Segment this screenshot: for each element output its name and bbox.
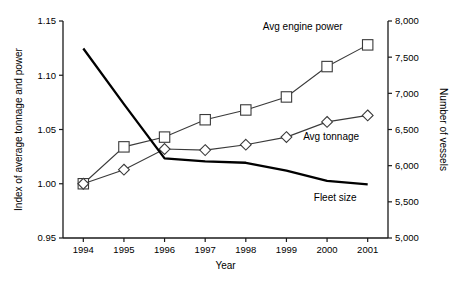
x-axis-tick-label: 2001 <box>357 244 378 255</box>
y-axis-left-title: Index of average tonnage and power <box>13 47 24 211</box>
y-axis-left-tick-label: 0.95 <box>38 232 57 243</box>
x-axis-tick-label: 2000 <box>316 244 337 255</box>
y-axis-left-tick-label: 1.05 <box>38 124 57 135</box>
data-point-marker <box>200 115 210 125</box>
data-point-marker <box>281 92 291 102</box>
data-point-marker <box>200 145 211 156</box>
series-annotation-label: Avg engine power <box>263 21 344 32</box>
data-point-marker <box>241 105 251 115</box>
series-annotation-label: Avg tonnage <box>303 131 359 142</box>
y-axis-right-tick-label: 6,000 <box>395 160 419 171</box>
x-axis-tick-label: 1997 <box>195 244 216 255</box>
data-point-marker <box>240 139 251 150</box>
x-axis-tick-label: 1996 <box>154 244 175 255</box>
y-axis-left-tick-label: 1.10 <box>38 70 57 81</box>
y-axis-left-tick-label: 1.15 <box>38 15 57 26</box>
x-axis-title: Year <box>215 260 236 271</box>
x-axis-tick-label: 1999 <box>276 244 297 255</box>
y-axis-right-tick-label: 7,000 <box>395 88 419 99</box>
y-axis-left-tick-label: 1.00 <box>38 178 57 189</box>
x-axis-tick-label: 1994 <box>73 244 94 255</box>
x-axis-tick-label: 1995 <box>113 244 134 255</box>
y-axis-right-tick-label: 7,500 <box>395 52 419 63</box>
y-axis-right-tick-label: 6,500 <box>395 124 419 135</box>
x-axis-tick-label: 1998 <box>235 244 256 255</box>
data-point-marker <box>322 61 332 71</box>
data-point-marker <box>362 110 373 121</box>
data-point-marker <box>159 132 169 142</box>
data-point-marker <box>281 132 292 143</box>
data-point-marker <box>322 117 333 128</box>
data-point-marker <box>119 142 129 152</box>
chart-container: 0.951.001.051.101.155,0005,5006,0006,500… <box>0 0 451 286</box>
data-point-marker <box>119 164 130 175</box>
y-axis-right-tick-label: 5,500 <box>395 196 419 207</box>
y-axis-right-tick-label: 5,000 <box>395 232 419 243</box>
y-axis-right-tick-label: 8,000 <box>395 15 419 26</box>
data-point-marker <box>362 40 372 50</box>
line-chart: 0.951.001.051.101.155,0005,5006,0006,500… <box>0 0 451 286</box>
series-annotation-label: Fleet size <box>314 192 357 203</box>
y-axis-right-title: Number of vessels <box>438 88 449 171</box>
